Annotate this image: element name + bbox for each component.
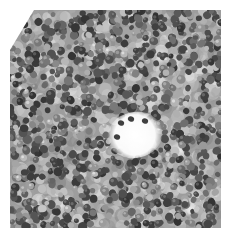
tissue-texture [10, 10, 221, 228]
micrograph-image [10, 10, 221, 228]
